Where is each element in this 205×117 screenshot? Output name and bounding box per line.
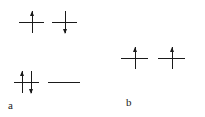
diagram-label-b: b (126, 97, 132, 108)
arrow-head (170, 47, 174, 52)
arrow-head (133, 47, 137, 52)
orbital-diagram-canvas: ab (0, 0, 205, 117)
diagram-b: b (0, 0, 205, 117)
